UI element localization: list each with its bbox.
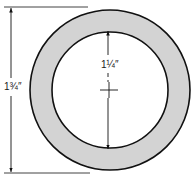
inner-diameter-label: 1¼″ [101, 59, 119, 70]
washer-diagram: 1¾″ 1¼″ [0, 0, 191, 190]
outer-diameter-label: 1¾″ [4, 81, 22, 92]
